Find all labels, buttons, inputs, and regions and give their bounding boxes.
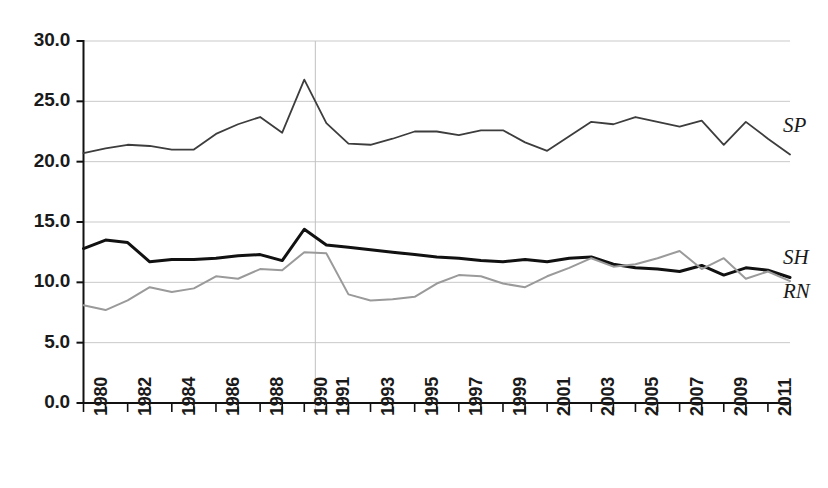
x-tick-label: 1984	[179, 377, 200, 416]
series-line-sp	[84, 80, 791, 155]
y-tick-label: 30.0	[8, 29, 70, 51]
x-tick-label: 2009	[731, 377, 752, 416]
x-tick-label: 2007	[687, 377, 708, 416]
series-label-rn: RN	[783, 279, 810, 304]
y-tick-label: 0.0	[8, 391, 70, 413]
x-tick-label: 1980	[91, 377, 112, 416]
x-tick-label: 1999	[510, 377, 531, 416]
x-tick-label: 2003	[598, 377, 619, 416]
x-tick-label: 1995	[422, 377, 443, 416]
data-series-group	[84, 80, 791, 310]
series-label-sh: SH	[783, 245, 809, 270]
x-tick-label: 1982	[135, 377, 156, 416]
x-tick-label: 1993	[378, 377, 399, 416]
x-tick-label: 1991	[333, 377, 354, 416]
axis-ticks	[77, 41, 791, 412]
x-tick-label: 2005	[642, 377, 663, 416]
x-tick-label: 1988	[267, 377, 288, 416]
x-tick-label: 1990	[311, 377, 332, 416]
y-tick-label: 10.0	[8, 270, 70, 292]
x-tick-label: 2011	[775, 378, 796, 416]
x-tick-label: 1997	[466, 377, 487, 416]
y-tick-label: 5.0	[8, 331, 70, 353]
line-chart: 0.05.010.015.020.025.030.0 1980198219841…	[0, 0, 828, 488]
y-tick-label: 20.0	[8, 150, 70, 172]
gridlines	[84, 41, 791, 343]
x-tick-label: 2001	[554, 377, 575, 416]
x-tick-label: 1986	[223, 377, 244, 416]
series-label-sp: SP	[783, 113, 806, 138]
y-tick-label: 25.0	[8, 89, 70, 111]
y-tick-label: 15.0	[8, 210, 70, 232]
